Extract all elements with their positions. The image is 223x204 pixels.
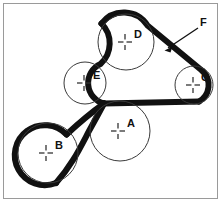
crosshair-B xyxy=(39,145,53,161)
pulley-label-E: E xyxy=(93,69,100,81)
belt-path-group xyxy=(15,12,209,185)
crosshair-A xyxy=(111,123,125,139)
crosshair-D xyxy=(118,34,132,50)
belt-routing-diagram: D E C A B F xyxy=(0,0,223,204)
pulley-outlines-group xyxy=(18,14,213,183)
pulley-label-C: C xyxy=(201,71,209,83)
figure-canvas: D E C A B F xyxy=(0,0,223,204)
belt-outer-loop xyxy=(102,12,203,71)
crosshair-C xyxy=(186,77,200,93)
crosshairs-group xyxy=(39,34,200,161)
pulley-label-D: D xyxy=(134,28,142,40)
callout-label-F: F xyxy=(200,16,207,28)
pulley-circle-D xyxy=(98,14,154,70)
belt-span-E-to-B xyxy=(56,104,104,184)
pulley-label-B: B xyxy=(55,139,63,151)
callout-F-leader-line xyxy=(168,28,198,48)
pulley-label-A: A xyxy=(127,117,135,129)
